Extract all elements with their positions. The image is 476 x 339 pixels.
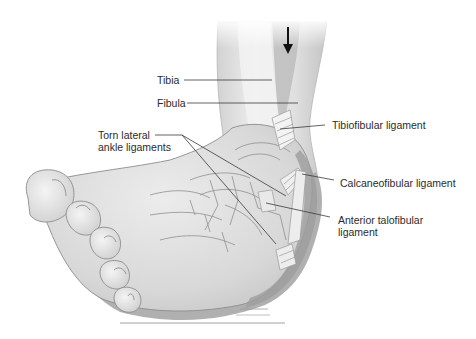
label-fibula: Fibula [157,97,186,109]
label-anterior-line1: Anterior talofibular [338,214,423,226]
label-anterior-line2: ligament [338,226,423,238]
label-tibia: Tibia [157,74,179,86]
label-tibiofibular-ligament: Tibiofibular ligament [332,119,426,131]
label-torn-line2: ankle ligaments [98,141,171,153]
label-anterior-talofibular: Anterior talofibular ligament [338,214,423,238]
label-calcaneofibular-ligament: Calcaneofibular ligament [340,177,456,189]
label-torn-ligaments: Torn lateral ankle ligaments [98,129,171,153]
ankle-illustration [0,0,476,339]
label-torn-line1: Torn lateral [98,129,171,141]
